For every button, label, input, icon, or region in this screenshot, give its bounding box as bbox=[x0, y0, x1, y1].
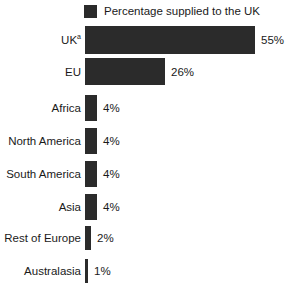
category-label: UKa bbox=[0, 34, 81, 46]
category-label: EU bbox=[0, 66, 81, 78]
category-label: Rest of Europe bbox=[0, 232, 81, 244]
bar bbox=[85, 128, 97, 154]
category-label: Africa bbox=[0, 102, 81, 114]
value-label: 55% bbox=[261, 34, 284, 46]
bar bbox=[85, 161, 97, 187]
bar bbox=[85, 226, 91, 250]
legend-label: Percentage supplied to the UK bbox=[104, 5, 260, 18]
value-label: 4% bbox=[103, 135, 120, 147]
value-label: 1% bbox=[94, 265, 111, 277]
bar bbox=[85, 194, 97, 220]
legend-swatch-icon bbox=[84, 5, 97, 18]
category-label: Asia bbox=[0, 201, 81, 213]
bar bbox=[85, 26, 255, 54]
chart-legend: Percentage supplied to the UK bbox=[84, 3, 260, 20]
category-label: North America bbox=[0, 135, 81, 147]
footnote-marker: a bbox=[77, 33, 81, 40]
bar bbox=[85, 58, 165, 85]
value-label: 4% bbox=[103, 201, 120, 213]
value-label: 2% bbox=[97, 232, 114, 244]
category-label: South America bbox=[0, 168, 81, 180]
value-label: 26% bbox=[171, 66, 194, 78]
plot-area: UKa55%EU26%Africa4%North America4%South … bbox=[0, 25, 299, 280]
value-label: 4% bbox=[103, 102, 120, 114]
value-label: 4% bbox=[103, 168, 120, 180]
bar bbox=[85, 95, 97, 121]
bar bbox=[85, 259, 88, 283]
category-label: Australasia bbox=[0, 265, 81, 277]
